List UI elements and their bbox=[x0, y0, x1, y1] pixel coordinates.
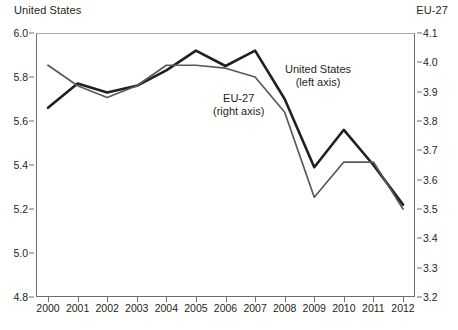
x-axis-tick-label: 2000 bbox=[36, 302, 59, 314]
right-axis-tickmark bbox=[417, 179, 422, 180]
annotation-eu-line1: EU-27 bbox=[213, 92, 264, 105]
right-axis-tick-label: 3.6 bbox=[423, 174, 438, 186]
right-axis-tick-label: 3.7 bbox=[423, 144, 438, 156]
right-axis-tick-label: 3.8 bbox=[423, 115, 438, 127]
chart-figure: United States EU-27 6.05.85.65.45.25.04.… bbox=[0, 0, 458, 330]
left-axis-tick-label: 4.8 bbox=[13, 291, 28, 303]
right-axis-tickmark bbox=[417, 209, 422, 210]
x-axis-tick-label: 2007 bbox=[243, 302, 266, 314]
right-axis-tickmark bbox=[417, 33, 422, 34]
right-axis-title: EU-27 bbox=[416, 4, 448, 16]
x-axis-tickmark bbox=[137, 297, 138, 302]
x-axis-tickmark bbox=[107, 297, 108, 302]
x-axis-tickmark bbox=[314, 297, 315, 302]
x-axis-tick-label: 2010 bbox=[332, 302, 355, 314]
x-axis-tickmark bbox=[373, 297, 374, 302]
x-axis-tick-label: 2005 bbox=[184, 302, 207, 314]
x-axis-tickmark bbox=[226, 297, 227, 302]
left-axis-tickmark bbox=[29, 297, 34, 298]
x-axis-tick-label: 2009 bbox=[303, 302, 326, 314]
x-axis-tick-label: 2006 bbox=[214, 302, 237, 314]
x-axis-tick-label: 2012 bbox=[391, 302, 414, 314]
x-axis-tick-label: 2001 bbox=[66, 302, 89, 314]
x-axis-tickmark bbox=[344, 297, 345, 302]
x-axis-tickmark bbox=[78, 297, 79, 302]
x-axis-tickmark bbox=[403, 297, 404, 302]
right-axis-tickmark bbox=[417, 297, 422, 298]
left-axis-tickmark bbox=[29, 33, 34, 34]
plot-area bbox=[36, 33, 415, 297]
left-axis-title: United States bbox=[14, 4, 81, 16]
x-axis-tick-label: 2004 bbox=[155, 302, 178, 314]
right-axis-tickmark bbox=[417, 91, 422, 92]
annotation-us-line2: (left axis) bbox=[285, 76, 351, 89]
left-axis-tickmark bbox=[29, 209, 34, 210]
annotation-eu-line2: (right axis) bbox=[213, 105, 264, 118]
right-axis-tick-label: 3.4 bbox=[423, 232, 438, 244]
right-axis-tickmark bbox=[417, 121, 422, 122]
right-axis-tickmark bbox=[417, 238, 422, 239]
right-axis-tick-labels: 4.14.03.93.83.73.63.53.43.33.2 bbox=[423, 33, 456, 297]
left-axis-tick-label: 5.4 bbox=[13, 159, 28, 171]
right-axis-tick-label: 4.1 bbox=[423, 27, 438, 39]
left-axis-tickmark bbox=[29, 253, 34, 254]
left-axis-tick-label: 5.8 bbox=[13, 71, 28, 83]
x-axis-tick-labels: 2000200120022003200420052006200720082009… bbox=[36, 302, 415, 322]
right-axis-tick-label: 3.5 bbox=[423, 203, 438, 215]
x-axis-tickmark bbox=[166, 297, 167, 302]
right-axis-tickmark bbox=[417, 150, 422, 151]
right-axis-tickmark bbox=[417, 267, 422, 268]
left-axis-tickmark bbox=[29, 77, 34, 78]
left-axis-tick-label: 5.0 bbox=[13, 247, 28, 259]
right-axis-tick-label: 4.0 bbox=[423, 56, 438, 68]
series-annotation-united-states: United States (left axis) bbox=[285, 63, 351, 89]
right-axis-tick-label: 3.2 bbox=[423, 291, 438, 303]
x-axis-tick-label: 2011 bbox=[362, 302, 385, 314]
right-axis-tick-label: 3.9 bbox=[423, 86, 438, 98]
x-axis-tickmark bbox=[196, 297, 197, 302]
left-axis-tick-label: 6.0 bbox=[13, 27, 28, 39]
right-axis-tickmark bbox=[417, 62, 422, 63]
left-axis-tickmark bbox=[29, 121, 34, 122]
chart-lines bbox=[36, 33, 415, 297]
x-axis-tick-label: 2002 bbox=[95, 302, 118, 314]
x-axis-tick-label: 2008 bbox=[273, 302, 296, 314]
x-axis-tickmark bbox=[48, 297, 49, 302]
x-axis-tickmark bbox=[255, 297, 256, 302]
x-axis-tickmark bbox=[285, 297, 286, 302]
left-axis-tickmark bbox=[29, 165, 34, 166]
x-axis-tick-label: 2003 bbox=[125, 302, 148, 314]
series-annotation-eu27: EU-27 (right axis) bbox=[213, 92, 264, 118]
left-axis-tick-label: 5.6 bbox=[13, 115, 28, 127]
left-axis-tick-label: 5.2 bbox=[13, 203, 28, 215]
right-axis-tick-label: 3.3 bbox=[423, 262, 438, 274]
left-axis-tick-labels: 6.05.85.65.45.25.04.8 bbox=[0, 33, 28, 297]
annotation-us-line1: United States bbox=[285, 63, 351, 76]
